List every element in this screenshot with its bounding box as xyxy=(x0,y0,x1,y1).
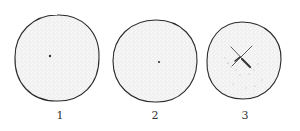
cell-2 xyxy=(113,20,197,102)
cell-2-outline xyxy=(113,20,197,102)
panel-label-3: 3 xyxy=(235,109,255,122)
cell-3 xyxy=(207,22,281,99)
cell-2-nucleus-dot xyxy=(158,61,160,63)
cell-1 xyxy=(15,15,99,101)
panel-label-1: 1 xyxy=(50,109,70,122)
cell-1-nucleus-dot xyxy=(49,55,51,57)
panel-label-2: 2 xyxy=(145,109,165,122)
cell-1-outline xyxy=(15,15,99,101)
